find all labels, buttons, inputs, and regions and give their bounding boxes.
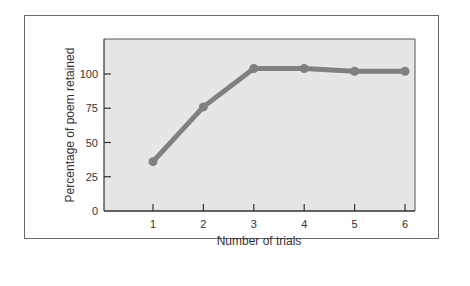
data-point: [350, 67, 359, 76]
y-tick-label: 50: [86, 137, 98, 149]
y-tick-label: 25: [86, 171, 98, 183]
y-tick-label: 0: [92, 205, 98, 217]
data-point: [300, 64, 309, 73]
x-tick-label: 1: [150, 218, 156, 230]
x-tick-label: 5: [352, 218, 358, 230]
data-point: [199, 102, 208, 111]
y-axis-title: Percentage of poem retained: [63, 48, 77, 203]
data-point: [401, 67, 410, 76]
data-point: [249, 64, 258, 73]
x-axis-title: Number of trials: [217, 234, 302, 248]
chart-svg: 0255075100 123456 Percentage of poem ret…: [0, 0, 470, 286]
plot-area: [104, 39, 415, 211]
data-point: [149, 157, 158, 166]
y-tick-label: 100: [80, 68, 98, 80]
x-tick-label: 2: [200, 218, 206, 230]
x-tick-label: 6: [402, 218, 408, 230]
x-tick-label: 3: [251, 218, 257, 230]
y-tick-label: 75: [86, 102, 98, 114]
x-tick-label: 4: [301, 218, 307, 230]
